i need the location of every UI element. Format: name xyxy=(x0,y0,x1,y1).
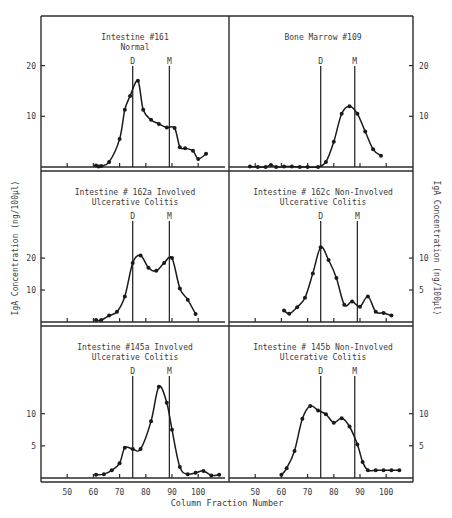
data-point xyxy=(348,425,352,429)
y-tick-label: 10 xyxy=(26,112,36,121)
panel-intestine-145a: Intestine #145a InvolvedUlcerative Colit… xyxy=(26,343,225,497)
data-point xyxy=(311,271,315,275)
data-point xyxy=(274,165,278,169)
data-point xyxy=(397,468,401,472)
data-point xyxy=(295,305,299,309)
y-tick-label: 20 xyxy=(26,254,36,263)
data-point xyxy=(141,108,145,112)
data-point xyxy=(136,79,140,83)
data-point xyxy=(366,294,370,298)
data-point xyxy=(269,163,273,167)
data-point xyxy=(282,308,286,312)
x-tick-label: 80 xyxy=(141,488,151,497)
data-point xyxy=(285,466,289,470)
data-point xyxy=(298,165,302,169)
y-tick-label: 10 xyxy=(26,410,36,419)
data-point xyxy=(287,312,291,316)
data-point xyxy=(194,312,198,316)
y-axis-label-left: IgA Concentration (ng/100μl) xyxy=(11,181,20,316)
marker-label-d: D xyxy=(318,212,323,221)
data-point xyxy=(165,401,169,405)
data-point xyxy=(334,276,338,280)
data-point xyxy=(324,412,328,416)
data-point xyxy=(178,145,182,149)
data-point xyxy=(340,112,344,116)
data-point xyxy=(196,157,200,161)
data-point xyxy=(306,165,310,169)
marker-label-d: D xyxy=(130,212,135,221)
data-point xyxy=(355,443,359,447)
x-tick-label: 50 xyxy=(62,488,72,497)
panel-title: Ulcerative Colitis xyxy=(280,198,367,207)
data-point xyxy=(382,468,386,472)
panel-intestine-161: Intestine #161Normal1020DM xyxy=(26,33,225,168)
data-point xyxy=(178,286,182,290)
data-point xyxy=(374,468,378,472)
data-point xyxy=(157,122,161,126)
data-point xyxy=(110,468,114,472)
y-tick-label: 10 xyxy=(26,286,36,295)
data-point xyxy=(374,310,378,314)
data-point xyxy=(293,449,297,453)
data-point xyxy=(371,147,375,151)
data-point xyxy=(332,140,336,144)
y-tick-label: 10 xyxy=(419,410,429,419)
x-tick-label: 90 xyxy=(355,488,365,497)
data-point xyxy=(256,165,260,169)
panel-title: Intestine # 162c Non-Involved xyxy=(253,188,393,197)
x-tick-label: 50 xyxy=(250,488,260,497)
data-curve xyxy=(250,106,381,167)
data-point xyxy=(149,419,153,423)
data-point xyxy=(366,468,370,472)
marker-label-d: D xyxy=(318,57,323,66)
data-point xyxy=(139,447,143,451)
data-point xyxy=(170,256,174,260)
data-point xyxy=(358,305,362,309)
data-curve xyxy=(281,406,399,475)
data-point xyxy=(363,130,367,134)
marker-label-m: M xyxy=(352,367,357,376)
data-point xyxy=(170,428,174,432)
x-tick-label: 70 xyxy=(303,488,313,497)
y-tick-label: 5 xyxy=(419,442,424,451)
y-axis-label-right: IgA Concentration (ng/100μl) xyxy=(432,181,441,316)
data-point xyxy=(99,318,103,322)
data-point xyxy=(131,261,135,265)
data-point xyxy=(157,385,161,389)
data-point xyxy=(379,154,383,158)
data-point xyxy=(382,311,386,315)
marker-label-m: M xyxy=(167,367,172,376)
data-point xyxy=(355,112,359,116)
data-point xyxy=(279,473,283,477)
panel-title: Ulcerative Colitis xyxy=(92,198,179,207)
marker-label-m: M xyxy=(355,212,360,221)
y-tick-label: 10 xyxy=(419,112,429,121)
data-point xyxy=(340,416,344,420)
x-tick-label: 90 xyxy=(167,488,177,497)
data-point xyxy=(115,310,119,314)
data-point xyxy=(300,417,304,421)
data-curve xyxy=(96,386,219,476)
data-point xyxy=(217,473,221,477)
panel-intestine-145b: Intestine # 145b Non-InvolvedUlcerative … xyxy=(229,343,429,497)
data-point xyxy=(389,314,393,318)
data-point xyxy=(191,149,195,153)
panel-title: Ulcerative Colitis xyxy=(280,353,367,362)
data-point xyxy=(194,471,198,475)
y-tick-label: 20 xyxy=(419,62,429,71)
data-point xyxy=(186,472,190,476)
data-point xyxy=(178,465,182,469)
data-point xyxy=(139,254,143,258)
y-tick-label: 20 xyxy=(26,62,36,71)
data-point xyxy=(389,468,393,472)
data-point xyxy=(102,472,106,476)
data-point xyxy=(350,300,354,304)
x-tick-label: 60 xyxy=(89,488,99,497)
marker-label-m: M xyxy=(167,212,172,221)
data-point xyxy=(128,94,132,98)
y-tick-label: 5 xyxy=(31,442,36,451)
data-point xyxy=(146,266,150,270)
x-tick-label: 80 xyxy=(329,488,339,497)
data-point xyxy=(361,460,365,464)
panel-title: Intestine #145a Involved xyxy=(77,343,193,352)
